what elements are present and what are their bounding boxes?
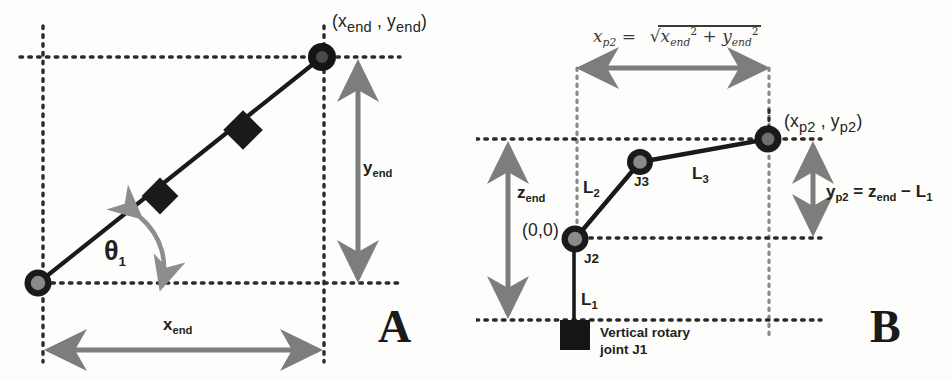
origin-coordinate-label: (0,0) — [522, 221, 559, 241]
panel-letter-b: B — [870, 300, 901, 353]
theta-angle-label: θ1 — [104, 236, 126, 270]
endpoint-coordinate-label: (xend , yend) — [332, 12, 427, 35]
dimension-y-end-label: yend — [363, 158, 392, 180]
panel-letter-a: A — [378, 300, 411, 353]
dimension-zend-label: zend — [517, 183, 545, 205]
arm-link — [38, 57, 322, 283]
joint-j3-label: J3 — [634, 174, 649, 189]
endpoint-inner — [762, 133, 775, 146]
joint-j2-marker — [142, 178, 179, 215]
formula-xp2: xp2 = √xend2 + yend2 — [593, 25, 759, 49]
dimension-x-end-label: xend — [163, 315, 192, 337]
theta-arc — [140, 217, 164, 287]
link-l1-label: L1 — [581, 290, 598, 312]
figure-root: (xend , yend) θ1 yend xend A — [0, 0, 952, 381]
link-l3-label: L3 — [692, 164, 709, 186]
relation-yp2-label: yp2 = zend − L1 — [826, 182, 932, 204]
joint-j3-inner — [633, 155, 647, 169]
joint-j1-inner — [31, 276, 45, 290]
joint-j1-label-line1: Vertical rotary — [600, 325, 690, 340]
link-l2 — [575, 162, 640, 239]
link-l2-label: L2 — [583, 178, 600, 200]
panel-a: (xend , yend) θ1 yend xend A — [0, 0, 476, 381]
joint-j1-marker — [560, 320, 590, 350]
joint-j2-label: J2 — [584, 251, 599, 266]
joint-j2-inner — [568, 232, 582, 246]
joint-j1-label-line2: joint J1 — [600, 342, 647, 357]
endpoint-inner — [316, 51, 328, 63]
endpoint-coordinate-label: (xp2 , yp2) — [784, 112, 862, 135]
panel-b: xp2 = √xend2 + yend2 (xp2 , yp2) zend L2… — [476, 0, 952, 381]
joint-j3-marker — [223, 110, 263, 150]
link-l3 — [640, 139, 768, 162]
